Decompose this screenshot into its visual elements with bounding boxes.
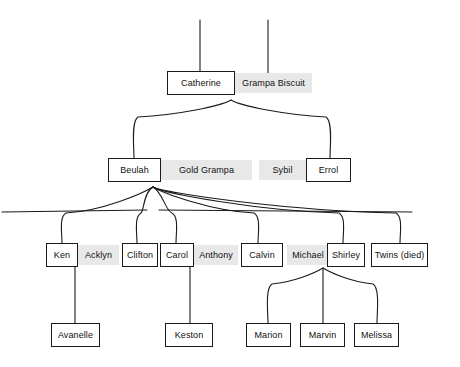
person-acklyn[interactable]: Acklyn (78, 245, 119, 265)
person-label: Acklyn (85, 251, 112, 260)
person-label: Michael (292, 251, 324, 260)
person-label: Beulah (120, 166, 149, 175)
person-clifton[interactable]: Clifton (122, 243, 158, 267)
person-label: Avanelle (58, 331, 93, 340)
person-errol[interactable]: Errol (306, 158, 351, 182)
gold-grampa-to-children-fan-branch-2 (153, 187, 177, 243)
connector-lines (0, 0, 460, 367)
person-label: Keston (175, 331, 204, 340)
person-marion[interactable]: Marion (246, 323, 291, 347)
person-label: Marion (254, 331, 282, 340)
person-anthony[interactable]: Anthony (194, 245, 238, 265)
person-label: Sybil (272, 166, 292, 175)
person-label: Calvin (249, 251, 275, 260)
person-label: Carol (166, 251, 188, 260)
person-marvin[interactable]: Marvin (300, 323, 345, 347)
shirley-to-children-fan-branch-0 (267, 268, 323, 323)
person-beulah[interactable]: Beulah (108, 158, 161, 182)
person-twins-died[interactable]: Twins (died) (371, 243, 428, 267)
person-shirley[interactable]: Shirley (327, 243, 365, 267)
person-ken[interactable]: Ken (46, 243, 78, 267)
person-calvin[interactable]: Calvin (241, 243, 283, 267)
gold-grampa-to-children-fan-branch-0 (61, 187, 153, 243)
person-label: Catherine (181, 79, 221, 88)
person-label: Ken (54, 251, 70, 260)
gold-grampa-to-children-fan-branch-3 (153, 187, 259, 243)
person-catherine[interactable]: Catherine (167, 71, 235, 95)
person-michael[interactable]: Michael (287, 245, 329, 265)
person-label: Melissa (361, 331, 392, 340)
person-avanelle[interactable]: Avanelle (51, 323, 100, 347)
person-label: Grampa Biscuit (242, 79, 305, 88)
person-grampa-biscuit[interactable]: Grampa Biscuit (235, 73, 312, 93)
person-carol[interactable]: Carol (160, 243, 194, 267)
person-keston[interactable]: Keston (165, 323, 213, 347)
person-label: Clifton (127, 251, 153, 260)
person-label: Twins (died) (375, 251, 425, 260)
catherine-to-children-fan-branch-1 (231, 100, 331, 158)
person-label: Shirley (332, 251, 360, 260)
person-label: Marvin (309, 331, 337, 340)
gold-grampa-to-children-fan-branch-1 (136, 187, 153, 243)
shirley-to-children-fan-branch-2 (323, 268, 378, 323)
person-gold-grampa[interactable]: Gold Grampa (161, 160, 252, 180)
person-melissa[interactable]: Melissa (354, 323, 399, 347)
gold-grampa-to-children-fan-branch-4 (153, 187, 344, 243)
family-tree-diagram: CatherineGrampa BiscuitBeulahGold Grampa… (0, 0, 460, 367)
catherine-to-children-fan-branch-0 (133, 100, 231, 158)
gold-grampa-to-children-fan-spine-left (2, 210, 147, 212)
person-label: Gold Grampa (179, 166, 234, 175)
gold-grampa-to-children-fan-spine-right (159, 210, 412, 212)
person-label: Errol (319, 166, 339, 175)
gold-grampa-to-children-fan-branch-5 (153, 187, 401, 243)
person-sybil[interactable]: Sybil (259, 160, 306, 180)
person-label: Anthony (199, 251, 233, 260)
